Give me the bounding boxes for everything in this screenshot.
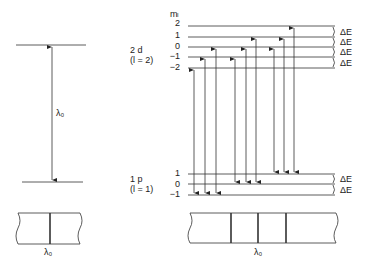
delta-e-2: ΔE — [340, 37, 352, 47]
delta-e-3: ΔE — [340, 47, 352, 57]
ml-lower-0: 0 — [166, 179, 180, 189]
delta-e-5: ΔE — [340, 174, 352, 184]
delta-e-4: ΔE — [340, 58, 352, 68]
upper-state-quantum: (l = 2) — [130, 55, 153, 65]
left-spectrum-label: λ₀ — [44, 247, 52, 257]
lower-state-quantum: (l = 1) — [130, 184, 153, 194]
ml-2: 2 — [166, 18, 180, 28]
lambda-label: λ₀ — [56, 108, 64, 118]
ml-minus1: −1 — [166, 51, 180, 61]
right-spectrum-label: λ₀ — [254, 247, 262, 257]
ml-1: 1 — [166, 30, 180, 40]
ml-minus2: −2 — [166, 62, 180, 72]
zeeman-diagram: λ₀ λ₀ mₗ 2 d (l = 2) 2 1 0 −1 −2 1 p (l … — [0, 0, 370, 267]
upper-state-name: 2 d — [130, 45, 143, 55]
lower-state-name: 1 p — [130, 174, 143, 184]
diagram-graphics — [0, 0, 370, 267]
delta-e-1: ΔE — [340, 27, 352, 37]
ml-lower-minus1: −1 — [166, 189, 180, 199]
ml-0: 0 — [166, 41, 180, 51]
ml-lower-1: 1 — [166, 168, 180, 178]
delta-e-6: ΔE — [340, 185, 352, 195]
